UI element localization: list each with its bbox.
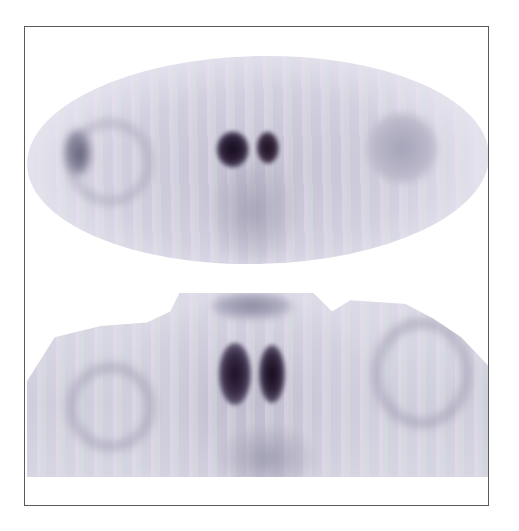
right-shoulder-uptake <box>366 112 437 183</box>
scan-panel-bottom <box>27 293 489 477</box>
figure-frame <box>24 26 489 506</box>
scan-panel-top <box>25 51 489 269</box>
thyroid-lobe-left <box>219 343 251 405</box>
right-shoulder-uptake <box>372 318 472 428</box>
left-shoulder-ring <box>66 118 154 206</box>
salivary-uptake <box>212 293 292 319</box>
midline-shadow <box>207 155 299 267</box>
mediastinum-shadow <box>217 423 317 477</box>
left-shoulder-uptake <box>67 363 155 451</box>
thyroid-lobe-right <box>259 345 285 403</box>
